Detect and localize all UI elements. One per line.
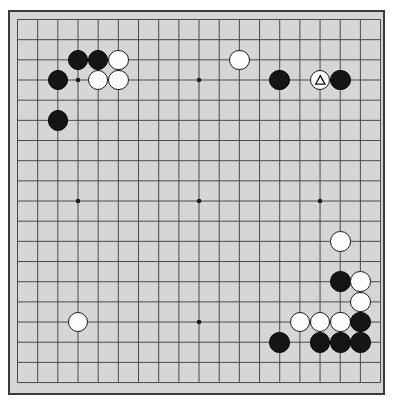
stone-white-s8[interactable] xyxy=(330,231,351,252)
stone-black-c14[interactable] xyxy=(48,110,69,131)
stone-black-s6[interactable] xyxy=(330,271,351,292)
stone-black-c16[interactable] xyxy=(48,70,69,91)
go-board-frame[interactable] xyxy=(8,10,385,395)
stone-white-t6[interactable] xyxy=(350,271,371,292)
stone-black-s3[interactable] xyxy=(330,332,351,353)
stone-white-f17[interactable] xyxy=(108,50,129,71)
stone-white-t5[interactable] xyxy=(350,292,371,313)
stone-white-s4[interactable] xyxy=(330,312,351,333)
stone-white-n17[interactable] xyxy=(229,50,250,71)
go-diagram-root xyxy=(0,0,393,409)
stone-black-s16[interactable] xyxy=(330,70,351,91)
stone-black-r3[interactable] xyxy=(310,332,331,353)
stone-white-f16[interactable] xyxy=(108,70,129,91)
stone-white-r16-marked[interactable] xyxy=(310,70,331,91)
stone-black-t3[interactable] xyxy=(350,332,371,353)
stone-black-p16[interactable] xyxy=(269,70,290,91)
stone-white-e16[interactable] xyxy=(88,70,109,91)
go-stone-layer[interactable] xyxy=(10,12,383,393)
stone-white-r4[interactable] xyxy=(310,312,331,333)
stone-black-e17[interactable] xyxy=(88,50,109,71)
go-board-surface[interactable] xyxy=(10,12,383,393)
stone-white-q4[interactable] xyxy=(290,312,311,333)
stone-black-p3[interactable] xyxy=(269,332,290,353)
triangle-mark-icon xyxy=(311,71,330,90)
stone-white-d4[interactable] xyxy=(68,312,89,333)
stone-black-d17[interactable] xyxy=(68,50,89,71)
stone-black-t4[interactable] xyxy=(350,312,371,333)
